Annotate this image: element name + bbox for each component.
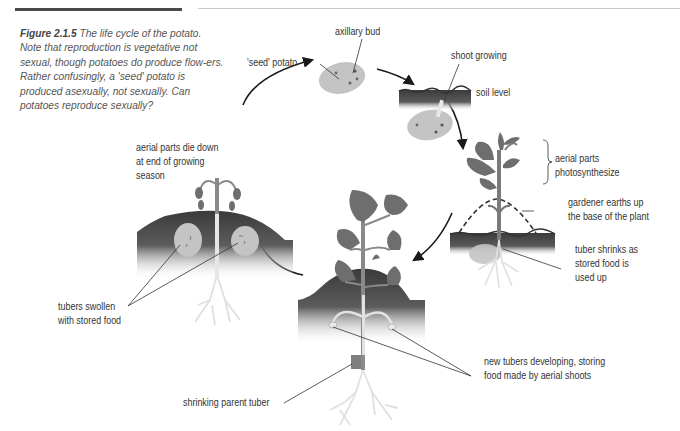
label-tuber-shrinks-3: used up xyxy=(575,271,607,285)
label-soil-level: soil level xyxy=(476,86,510,100)
label-aerial-parts-photosynthesize-2: photosynthesize xyxy=(555,166,620,180)
label-gardener-earths-up-2: the base of the plant xyxy=(568,210,649,224)
label-new-tubers-2: food made by aerial shoots xyxy=(484,369,591,383)
seed-potato-illustration xyxy=(316,59,367,98)
shoot-growing-illustration xyxy=(399,86,471,144)
label-tubers-swollen-2: with stored food xyxy=(58,314,121,328)
label-tuber-shrinks-2: stored food is xyxy=(575,257,629,271)
arrow-to-new-tubers xyxy=(414,213,452,260)
label-aerial-parts-photosynthesize-1: aerial parts xyxy=(555,152,599,166)
die-down-plant-illustration xyxy=(137,178,293,325)
label-shoot-growing: shoot growing xyxy=(451,49,507,63)
label-axillary-bud: axillary bud xyxy=(335,25,380,39)
label-aerial-parts-die-2: at end of growing xyxy=(136,155,205,169)
label-tubers-swollen-1: tubers swollen xyxy=(58,300,115,314)
label-new-tubers-1: new tubers developing, storing xyxy=(484,355,605,369)
label-aerial-parts-die-3: season xyxy=(136,169,165,183)
label-shrinking-parent-tuber: shrinking parent tuber xyxy=(183,396,269,410)
label-aerial-parts-die-1: aerial parts die down xyxy=(136,141,218,155)
arrow-to-shoot-growing xyxy=(377,69,413,84)
label-gardener-earths-up-1: gardener earths up xyxy=(568,196,644,210)
label-tuber-shrinks-1: tuber shrinks as xyxy=(575,243,638,257)
label-seed-potato: 'seed' potato xyxy=(247,56,297,70)
earthed-up-plant-illustration xyxy=(450,132,555,288)
growing-plant-illustration xyxy=(298,190,425,425)
